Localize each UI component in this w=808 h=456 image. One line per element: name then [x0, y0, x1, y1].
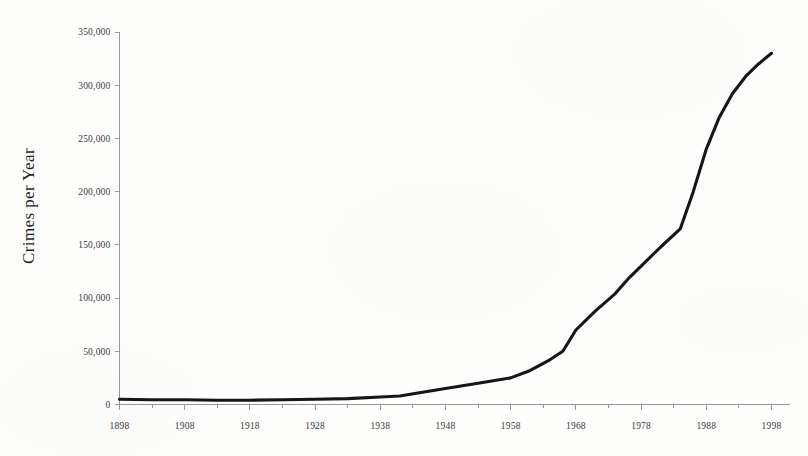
x-tick-label: 1918 — [240, 421, 260, 431]
x-tick-label: 1988 — [696, 421, 716, 431]
data-series-line — [120, 53, 772, 400]
x-tick-label: 1938 — [370, 421, 390, 431]
y-tick-label: 100,000 — [78, 293, 110, 303]
y-tick-label: 150,000 — [78, 240, 110, 250]
y-tick-marks — [115, 32, 120, 405]
x-tick-label: 1968 — [566, 421, 586, 431]
crimes-per-year-line-chart: Crimes per Year 050,000100,000150,000200… — [0, 0, 808, 456]
y-tick-label: 250,000 — [78, 134, 110, 144]
y-tick-label: 300,000 — [78, 81, 110, 91]
y-tick-label: 200,000 — [78, 187, 110, 197]
x-tick-label: 1978 — [631, 421, 651, 431]
x-tick-label: 1998 — [762, 421, 782, 431]
x-tick-labels: 1898190819181928193819481958196819781988… — [110, 421, 782, 431]
x-tick-label: 1928 — [305, 421, 325, 431]
x-axis-group: 1898190819181928193819481958196819781988… — [110, 405, 790, 431]
x-tick-label: 1948 — [436, 421, 456, 431]
x-tick-label: 1908 — [175, 421, 195, 431]
x-tick-label: 1898 — [110, 421, 130, 431]
plot-area: 050,000100,000150,000200,000250,000300,0… — [0, 0, 808, 456]
y-tick-label: 50,000 — [83, 347, 110, 357]
y-tick-labels: 050,000100,000150,000200,000250,000300,0… — [78, 27, 110, 410]
y-axis-group: 050,000100,000150,000200,000250,000300,0… — [78, 27, 119, 410]
y-tick-label: 0 — [106, 400, 111, 410]
x-tick-label: 1958 — [501, 421, 521, 431]
y-tick-label: 350,000 — [78, 27, 110, 37]
